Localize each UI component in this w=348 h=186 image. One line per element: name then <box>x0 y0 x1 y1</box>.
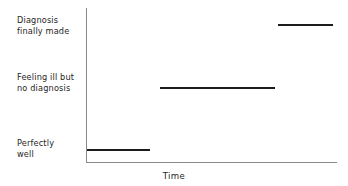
y-axis-label-diagnosis-line2: finally made <box>17 26 69 37</box>
step-chart-figure: Diagnosis finally made Feeling ill but n… <box>0 0 348 186</box>
y-axis-label-ill-line2: no diagnosis <box>17 83 74 94</box>
y-axis-line <box>86 8 87 162</box>
step-segment-feeling-ill <box>160 87 275 89</box>
y-axis-label-feeling-ill: Feeling ill but no diagnosis <box>17 72 74 93</box>
step-segment-perfectly-well <box>87 149 150 151</box>
y-axis-label-ill-line1: Feeling ill but <box>17 72 74 83</box>
x-axis-line <box>86 162 337 163</box>
step-segment-diagnosis-made <box>278 24 333 26</box>
y-axis-label-diagnosis-finally-made: Diagnosis finally made <box>17 15 69 36</box>
y-axis-label-well-line2: well <box>17 149 54 160</box>
x-axis-title: Time <box>0 171 348 181</box>
y-axis-label-well-line1: Perfectly <box>17 138 54 149</box>
y-axis-label-diagnosis-line1: Diagnosis <box>17 15 69 26</box>
y-axis-label-perfectly-well: Perfectly well <box>17 138 54 159</box>
